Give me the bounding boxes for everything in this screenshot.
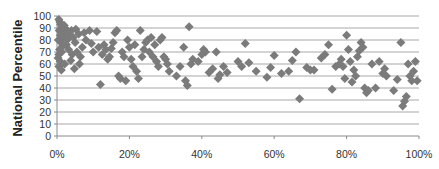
data-point-diamond: [396, 38, 405, 47]
data-point-diamond: [346, 57, 355, 66]
data-point-diamond: [252, 67, 261, 76]
data-point-diamond: [413, 76, 422, 85]
data-point-diamond: [134, 74, 143, 83]
y-axis-ticks: 0102030405060708090100: [33, 10, 57, 142]
data-point-diamond: [411, 57, 420, 66]
y-tick-label: 40: [39, 82, 51, 94]
data-point-diamond: [371, 84, 380, 93]
y-tick-label: 100: [33, 10, 51, 22]
y-tick-label: 10: [39, 118, 51, 130]
data-point-diamond: [212, 48, 221, 57]
data-point-diamond: [375, 57, 384, 66]
data-point-diamond: [123, 36, 132, 45]
data-point-diamond: [127, 55, 136, 64]
data-point-diamond: [344, 45, 353, 54]
x-tick-label: 80%: [336, 148, 357, 160]
data-point-diamond: [165, 67, 174, 76]
data-point-diamond: [284, 67, 293, 76]
y-tick-label: 0: [45, 130, 51, 142]
data-point-diamond: [367, 60, 376, 69]
y-tick-label: 60: [39, 58, 51, 70]
data-point-diamond: [277, 69, 286, 78]
data-point-diamond: [176, 62, 185, 71]
data-point-diamond: [185, 22, 194, 31]
data-points: [54, 15, 422, 110]
data-point-diamond: [389, 86, 398, 95]
data-point-diamond: [295, 94, 304, 103]
x-tick-label: 60%: [264, 148, 285, 160]
y-tick-label: 50: [39, 70, 51, 82]
y-tick-label: 80: [39, 34, 51, 46]
y-tick-label: 20: [39, 106, 51, 118]
x-tick-label: 100%: [406, 148, 433, 160]
data-point-diamond: [328, 85, 337, 94]
data-point-diamond: [342, 31, 351, 40]
y-tick-label: 30: [39, 94, 51, 106]
data-point-diamond: [172, 72, 181, 81]
y-tick-label: 90: [39, 22, 51, 34]
x-tick-label: 0%: [49, 148, 64, 160]
data-point-diamond: [244, 58, 253, 67]
data-point-diamond: [324, 40, 333, 49]
y-axis-title: National Percentile: [10, 19, 25, 136]
x-tick-label: 40%: [191, 148, 212, 160]
data-point-diamond: [138, 52, 147, 61]
data-point-diamond: [179, 43, 188, 52]
data-point-diamond: [136, 26, 145, 35]
scatter-chart: 0102030405060708090100 0%20%40%60%80%100…: [0, 0, 439, 169]
data-point-diamond: [262, 73, 271, 82]
y-tick-label: 70: [39, 46, 51, 58]
x-axis-ticks: 0%20%40%60%80%100%: [49, 136, 432, 160]
data-point-diamond: [340, 74, 349, 83]
data-point-diamond: [404, 60, 413, 69]
data-point-diamond: [291, 48, 300, 57]
x-tick-label: 20%: [119, 148, 140, 160]
